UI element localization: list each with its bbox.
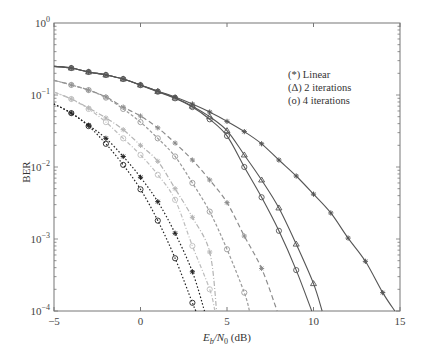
asterisk-marker-icon (190, 157, 195, 162)
asterisk-marker-icon (138, 143, 143, 148)
asterisk-marker-icon (242, 129, 247, 134)
axis-ticks (54, 23, 400, 311)
legend-entry-2-iterations: (Δ) 2 iterations (288, 82, 351, 94)
asterisk-marker-icon (311, 192, 316, 197)
series-dashdot-circle (54, 92, 215, 311)
circle-marker-icon (155, 172, 160, 177)
series-line (54, 80, 249, 311)
y-axis-label: BER (20, 161, 32, 183)
x-tick-label: 0 (138, 315, 144, 327)
legend-entry-linear: (*) Linear (288, 69, 331, 81)
x-tick-label: 10 (308, 315, 320, 327)
series-solid-circle (54, 65, 312, 311)
series-line (54, 92, 217, 311)
asterisk-marker-icon (224, 200, 229, 205)
y-tick-label: 10−4 (30, 303, 50, 317)
asterisk-marker-icon (173, 140, 178, 145)
asterisk-marker-icon (190, 215, 195, 220)
asterisk-marker-icon (173, 186, 178, 191)
circle-marker-icon (190, 300, 195, 305)
asterisk-marker-icon (121, 154, 126, 159)
x-tick-labels: −5051015 (48, 315, 406, 327)
asterisk-marker-icon (138, 113, 143, 118)
x-tick-label: 15 (395, 315, 407, 327)
asterisk-marker-icon (190, 269, 195, 274)
asterisk-marker-icon (155, 199, 160, 204)
ber-chart: −5051015 10010−110−210−310−4 BER Eb/N0 (… (0, 0, 427, 356)
series-dashdot-asterisk (54, 92, 217, 311)
circle-marker-icon (242, 290, 247, 295)
asterisk-marker-icon (259, 266, 264, 271)
asterisk-marker-icon (155, 125, 160, 130)
circle-marker-icon (103, 141, 108, 146)
series-line (54, 66, 322, 311)
series-dashed-asterisk (54, 80, 277, 311)
asterisk-marker-icon (207, 249, 212, 254)
series-line (54, 80, 277, 311)
asterisk-marker-icon (380, 290, 385, 295)
legend-entry-4-iterations: (o) 4 iterations (288, 95, 350, 107)
y-tick-label: 10−2 (30, 159, 50, 173)
asterisk-marker-icon (103, 136, 108, 141)
circle-marker-icon (121, 162, 126, 167)
asterisk-marker-icon (346, 235, 351, 240)
asterisk-marker-icon (276, 157, 281, 162)
plot-frame (54, 23, 400, 311)
x-tick-label: 5 (224, 315, 230, 327)
y-tick-label: 10−3 (30, 231, 50, 245)
x-tick-label: −5 (48, 315, 60, 327)
series-dashed-circle (54, 80, 249, 311)
series-line (54, 104, 196, 311)
y-tick-label: 100 (35, 15, 50, 29)
asterisk-marker-icon (363, 259, 368, 264)
asterisk-marker-icon (173, 231, 178, 236)
plot-area (54, 23, 400, 311)
asterisk-marker-icon (259, 141, 264, 146)
asterisk-marker-icon (138, 175, 143, 180)
series-line (54, 92, 215, 311)
asterisk-marker-icon (155, 159, 160, 164)
legend: (*) Linear (Δ) 2 iterations (o) 4 iterat… (288, 69, 351, 107)
asterisk-marker-icon (224, 119, 229, 124)
asterisk-marker-icon (207, 177, 212, 182)
circle-marker-icon (190, 243, 195, 248)
y-tick-labels: 10010−110−210−310−4 (30, 15, 50, 317)
x-axis-label: Eb/N0 (dB) (202, 331, 251, 346)
y-tick-label: 10−1 (30, 87, 50, 101)
asterisk-marker-icon (242, 233, 247, 238)
series-dotted-circle (54, 104, 196, 311)
series-line (54, 66, 312, 311)
